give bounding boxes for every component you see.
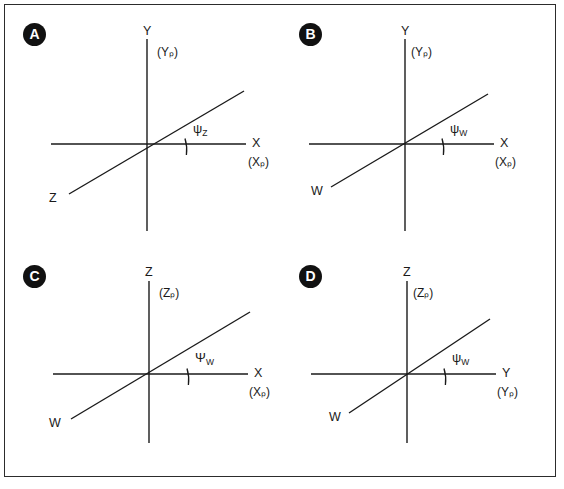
panel-a: A Y (Yₚ) X (Xₚ) Z ψZ <box>5 5 281 241</box>
angle-subscript: Z <box>202 128 207 138</box>
rotated-axis-label: Z <box>49 191 57 205</box>
angle-symbol: ψ <box>450 121 459 136</box>
panel-label-badge-d: D <box>299 265 322 288</box>
rotated-axis-line <box>71 312 250 419</box>
angle-arc <box>444 369 446 386</box>
angle-label: ψZ <box>193 121 207 136</box>
panel-b-diagram <box>281 5 557 241</box>
panel-c-diagram <box>5 241 281 477</box>
vertical-axis-label: Y <box>401 24 409 38</box>
figure-border: A Y (Yₚ) X (Xₚ) Z ψZ B Y (Yₚ) X (Xₚ) W ψ… <box>4 4 556 477</box>
panel-b: B Y (Yₚ) X (Xₚ) W ψW <box>281 5 557 241</box>
vertical-axis-label: Y <box>143 24 151 38</box>
horizontal-axis-parenthetical: (Xₚ) <box>495 155 516 169</box>
angle-symbol: ψ <box>193 121 202 136</box>
angle-label: ψW <box>450 121 467 136</box>
rotated-axis-label: W <box>311 184 323 198</box>
rotated-axis-label: W <box>329 410 341 424</box>
panel-label-badge-c: C <box>23 265 46 288</box>
panel-c: C Z (Zₚ) X (Xₚ) W ΨW <box>5 241 281 477</box>
vertical-axis-label: Z <box>145 265 153 279</box>
vertical-axis-parenthetical: (Zₚ) <box>159 286 179 300</box>
angle-label: ΨW <box>195 350 214 365</box>
angle-symbol: ψ <box>452 350 461 365</box>
vertical-axis-parenthetical: (Yₚ) <box>157 45 178 59</box>
horizontal-axis-parenthetical: (Yₚ) <box>497 385 518 399</box>
angle-arc <box>185 139 187 156</box>
vertical-axis-label: Z <box>403 265 411 279</box>
angle-arc <box>442 139 444 156</box>
panel-label-badge-a: A <box>23 23 46 46</box>
horizontal-axis-label: X <box>252 136 260 150</box>
vertical-axis-parenthetical: (Zₚ) <box>413 286 433 300</box>
angle-symbol: Ψ <box>195 350 206 365</box>
panel-d: D Z (Zₚ) Y (Yₚ) W ψW <box>281 241 557 477</box>
vertical-axis-parenthetical: (Yₚ) <box>411 45 432 59</box>
angle-subscript: W <box>459 128 467 138</box>
rotated-axis-line <box>331 94 488 187</box>
rotated-axis-label: W <box>49 416 61 430</box>
horizontal-axis-label: Y <box>502 366 510 380</box>
angle-arc <box>187 369 189 386</box>
panel-a-diagram <box>5 5 281 241</box>
panel-d-diagram <box>281 241 557 477</box>
horizontal-axis-label: X <box>254 366 262 380</box>
horizontal-axis-label: X <box>500 136 508 150</box>
angle-subscript: W <box>206 357 214 367</box>
rotated-axis-line <box>69 91 244 194</box>
angle-label: ψW <box>452 350 469 365</box>
horizontal-axis-parenthetical: (Xₚ) <box>248 155 269 169</box>
panel-label-badge-b: B <box>299 23 322 46</box>
angle-subscript: W <box>461 357 469 367</box>
horizontal-axis-parenthetical: (Xₚ) <box>249 385 270 399</box>
